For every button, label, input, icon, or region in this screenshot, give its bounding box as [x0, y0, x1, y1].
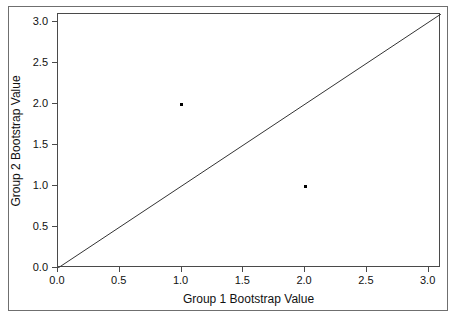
plot-area: [57, 13, 440, 267]
x-axis-tick-label: 0.0: [37, 274, 77, 286]
y-axis-tick-label: 1.5: [14, 138, 48, 150]
x-axis-tick: [57, 267, 58, 272]
identity-reference-line: [58, 14, 441, 268]
y-axis-tick-label: 3.0: [14, 15, 48, 27]
reference-line-segment: [58, 14, 441, 268]
figure-root: Group 2 Bootstrap Value Group 1 Bootstra…: [0, 0, 456, 320]
x-axis-tick: [242, 267, 243, 272]
y-axis-tick: [52, 103, 57, 104]
y-axis-tick-label: 2.5: [14, 56, 48, 68]
x-axis-tick-label: 3.0: [408, 274, 448, 286]
x-axis-tick-label: 2.5: [346, 274, 386, 286]
x-axis-tick-label: 0.5: [99, 274, 139, 286]
x-axis-tick: [181, 267, 182, 272]
x-axis-tick-label: 2.0: [284, 274, 324, 286]
y-axis-tick-label: 2.0: [14, 97, 48, 109]
x-axis-tick-label: 1.0: [161, 274, 201, 286]
y-axis-tick-label: 0.0: [14, 261, 48, 273]
x-axis-tick-label: 1.5: [222, 274, 262, 286]
plot-inner: [58, 14, 439, 266]
y-axis-tick: [52, 226, 57, 227]
x-axis-tick: [366, 267, 367, 272]
x-axis-label: Group 1 Bootstrap Value: [57, 292, 440, 306]
y-axis-tick-label: 1.0: [14, 179, 48, 191]
y-axis-tick: [52, 185, 57, 186]
y-axis-tick: [52, 62, 57, 63]
y-axis-tick: [52, 144, 57, 145]
x-axis-tick: [119, 267, 120, 272]
x-axis-tick: [428, 267, 429, 272]
data-point: [304, 185, 307, 188]
data-point: [180, 103, 183, 106]
x-axis-tick: [304, 267, 305, 272]
y-axis-tick: [52, 267, 57, 268]
y-axis-tick-label: 0.5: [14, 220, 48, 232]
y-axis-tick: [52, 21, 57, 22]
